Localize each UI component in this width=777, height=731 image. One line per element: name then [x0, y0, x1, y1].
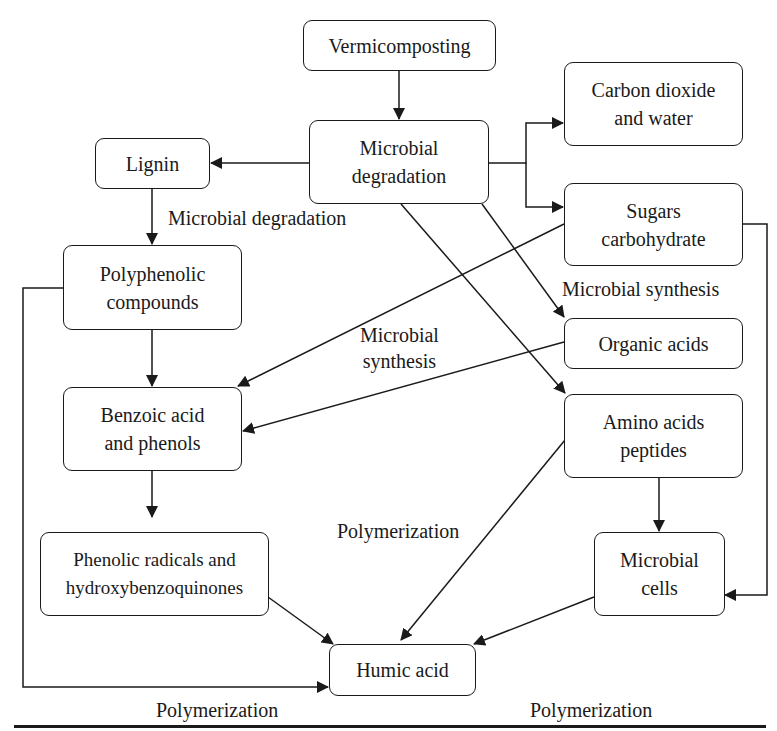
node-label: Humic acid — [356, 656, 449, 684]
edge-degradation-to-co2 — [488, 123, 563, 163]
node-label: degradation — [352, 162, 446, 190]
edge-label-line: Microbial — [360, 322, 439, 348]
node-label: Benzoic acid — [101, 401, 205, 429]
node-microbial-cells: Microbial cells — [594, 532, 725, 616]
node-label: and phenols — [104, 429, 200, 457]
node-label: Microbial — [360, 134, 439, 162]
edge-label-line: synthesis — [360, 348, 439, 374]
edge-label-polymerization-center: Polymerization — [337, 519, 459, 543]
node-label: Carbon dioxide — [592, 76, 716, 104]
node-amino-acids-peptides: Amino acids peptides — [564, 394, 743, 478]
edge-phenolic-radicals-to-humic — [268, 597, 333, 644]
node-label: peptides — [620, 436, 687, 464]
node-label: Amino acids — [603, 408, 705, 436]
edge-degradation-to-sugars — [526, 163, 563, 207]
node-label: Microbial — [620, 546, 699, 574]
edge-label-lignin-degradation: Microbial degradation — [168, 206, 346, 230]
edge-label-polymerization-left: Polymerization — [156, 698, 278, 722]
edge-degradation-to-organic-acids — [482, 204, 564, 317]
node-label: carbohydrate — [601, 225, 705, 253]
node-label: cells — [641, 574, 678, 602]
node-label: Vermicomposting — [328, 32, 470, 60]
node-label: Lignin — [126, 150, 179, 178]
node-carbon-dioxide-water: Carbon dioxide and water — [564, 62, 743, 146]
node-vermicomposting: Vermicomposting — [303, 20, 496, 71]
node-label: Polyphenolic — [100, 260, 206, 288]
node-phenolic-radicals: Phenolic radicals and hydroxybenzoquinon… — [40, 532, 269, 616]
edge-label-microbial-synthesis-center: Microbial synthesis — [360, 322, 439, 374]
node-label: and water — [614, 104, 692, 132]
node-label: Sugars — [626, 197, 680, 225]
edge-microbial-cells-to-humic — [474, 597, 594, 644]
edge-label-polymerization-right: Polymerization — [530, 698, 652, 722]
node-organic-acids: Organic acids — [564, 318, 743, 369]
node-humic-acid: Humic acid — [329, 644, 476, 696]
node-benzoic-acid-phenols: Benzoic acid and phenols — [63, 387, 242, 471]
node-polyphenolic-compounds: Polyphenolic compounds — [63, 245, 242, 330]
node-label: hydroxybenzoquinones — [66, 574, 243, 602]
edge-label-microbial-synthesis-right: Microbial synthesis — [562, 277, 719, 301]
node-lignin: Lignin — [95, 138, 210, 189]
node-microbial-degradation: Microbial degradation — [309, 120, 489, 204]
node-label: compounds — [106, 288, 198, 316]
edge-polyphenolic-to-humic — [23, 288, 328, 687]
node-sugars-carbohydrate: Sugars carbohydrate — [564, 183, 743, 266]
node-label: Organic acids — [598, 330, 708, 358]
node-label: Phenolic radicals and — [73, 546, 236, 574]
bottom-rule — [14, 725, 766, 728]
